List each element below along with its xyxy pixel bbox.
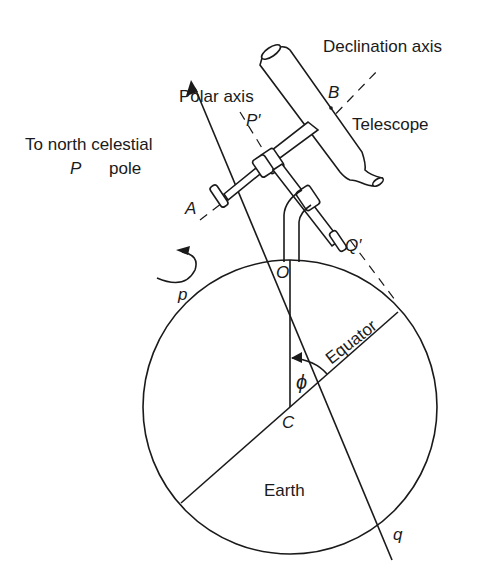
declination-shaft <box>272 122 318 158</box>
rotation-arrowhead-icon <box>176 246 190 255</box>
label-point-Q-prime: Q′ <box>345 237 361 254</box>
label-point-B: B <box>328 84 339 101</box>
label-to-north-celestial: To north celestial <box>25 136 153 153</box>
label-point-P: P <box>70 160 81 177</box>
rotation-arrow <box>157 252 196 283</box>
label-point-O: O <box>276 264 289 281</box>
label-polar-axis: Polar axis <box>179 88 254 105</box>
label-telescope: Telescope <box>352 116 429 133</box>
label-point-A: A <box>185 200 196 217</box>
label-earth: Earth <box>264 482 305 499</box>
label-angle-phi: ϕ <box>296 372 307 392</box>
label-pole: pole <box>109 160 141 177</box>
label-point-q: q <box>393 526 402 543</box>
label-declination-axis: Declination axis <box>323 38 442 55</box>
label-point-p: p <box>178 286 187 303</box>
label-point-P-prime: P′ <box>246 112 261 129</box>
label-point-C: C <box>282 414 294 431</box>
angle-arrow-icon <box>291 352 302 363</box>
